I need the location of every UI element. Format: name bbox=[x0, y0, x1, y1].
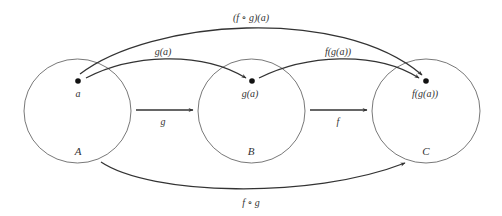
arrow-fog-a-label: (f ∘ g)(a) bbox=[233, 12, 270, 24]
arrow-f-label: f bbox=[337, 116, 341, 127]
arrow-fog-a-curve bbox=[80, 28, 422, 75]
set-C-label: C bbox=[422, 145, 430, 157]
set-A: a A bbox=[24, 59, 131, 163]
element-ga-label: g(a) bbox=[242, 88, 259, 100]
arrow-g: g bbox=[136, 110, 193, 127]
arrow-g-a: g(a) bbox=[86, 46, 246, 78]
composition-diagram: a A g(a) B f(g(a)) C g f g(a) f(g(a)) (f… bbox=[0, 0, 502, 216]
arrow-fog: f ∘ g bbox=[101, 162, 405, 208]
arrow-fog-a: (f ∘ g)(a) bbox=[80, 12, 422, 75]
element-fga-dot bbox=[423, 78, 429, 84]
set-A-label: A bbox=[74, 145, 82, 157]
element-a-label: a bbox=[76, 88, 81, 99]
arrow-f: f bbox=[310, 110, 367, 127]
arrow-g-label: g bbox=[161, 116, 166, 127]
arrow-fog-curve bbox=[101, 162, 405, 189]
element-ga-dot bbox=[249, 78, 255, 84]
arrow-g-a-label: g(a) bbox=[155, 46, 172, 58]
arrow-g-a-curve bbox=[86, 59, 246, 78]
element-a-dot bbox=[75, 78, 81, 84]
arrow-f-g-a-label: f(g(a)) bbox=[325, 46, 352, 58]
set-B-label: B bbox=[248, 145, 255, 157]
element-fga-label: f(g(a)) bbox=[412, 88, 439, 100]
set-C: f(g(a)) C bbox=[372, 59, 480, 163]
set-B: g(a) B bbox=[198, 59, 305, 163]
arrow-fog-label: f ∘ g bbox=[242, 197, 260, 208]
arrow-f-g-a: f(g(a)) bbox=[259, 46, 419, 78]
